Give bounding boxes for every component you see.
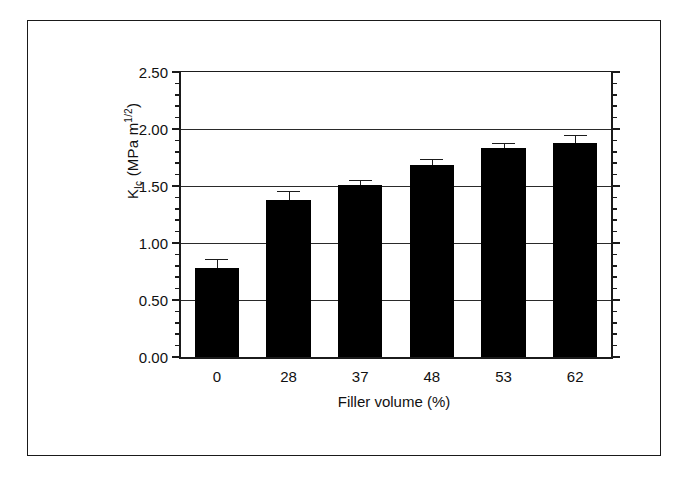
x-axis-title: Filler volume (%) — [179, 393, 609, 410]
y-axis-minor-tick — [175, 254, 181, 256]
y-axis-tick-label: 1.50 — [108, 178, 168, 195]
y-axis-minor-tick-right — [611, 117, 617, 119]
plot-area: 0.000.501.001.502.002.50 02837485362 — [179, 71, 613, 359]
y-axis-major-tick — [172, 185, 181, 187]
y-axis-major-tick — [172, 128, 181, 130]
y-axis-major-tick — [172, 356, 181, 358]
error-bar-stem — [432, 159, 433, 166]
y-axis-major-tick — [172, 242, 181, 244]
y-axis-minor-tick — [175, 151, 181, 153]
y-axis-major-tick — [172, 71, 181, 73]
error-bar-cap — [205, 259, 228, 260]
y-axis-major-tick-right — [611, 356, 620, 358]
y-axis-major-tick-right — [611, 71, 620, 73]
y-axis-major-tick-right — [611, 242, 620, 244]
y-axis-minor-tick — [175, 288, 181, 290]
x-axis-tick-label: 48 — [423, 368, 440, 385]
y-axis-minor-tick — [175, 311, 181, 313]
y-axis-minor-tick-right — [611, 140, 617, 142]
bar — [266, 200, 310, 357]
y-axis-minor-tick-right — [611, 288, 617, 290]
y-axis-minor-tick — [175, 333, 181, 335]
y-axis-minor-tick-right — [611, 174, 617, 176]
bar — [481, 148, 525, 357]
x-axis-tick-label: 53 — [495, 368, 512, 385]
y-axis-minor-tick-right — [611, 94, 617, 96]
bar — [338, 185, 382, 357]
y-axis-minor-tick — [175, 197, 181, 199]
y-axis-tick-label: 2.50 — [108, 64, 168, 81]
y-axis-minor-tick — [175, 117, 181, 119]
y-axis-minor-tick — [175, 231, 181, 233]
y-axis-major-tick-right — [611, 128, 620, 130]
x-axis-tick-label: 28 — [280, 368, 297, 385]
y-axis-units-suffix: ) — [124, 103, 141, 108]
y-axis-minor-tick-right — [611, 151, 617, 153]
y-axis-minor-tick — [175, 140, 181, 142]
error-bar-stem — [217, 259, 218, 268]
x-axis-tick-label: 37 — [352, 368, 369, 385]
gridline — [181, 243, 611, 244]
gridline — [181, 186, 611, 187]
bar — [410, 165, 454, 357]
y-axis-minor-tick — [175, 174, 181, 176]
error-bar-stem — [575, 135, 576, 143]
y-axis-minor-tick-right — [611, 219, 617, 221]
gridline — [181, 300, 611, 301]
y-axis-major-tick-right — [611, 185, 620, 187]
y-axis-minor-tick-right — [611, 197, 617, 199]
y-axis-minor-tick — [175, 219, 181, 221]
error-bar-cap — [349, 180, 372, 181]
y-axis-tick-label: 1.00 — [108, 235, 168, 252]
y-axis-minor-tick — [175, 276, 181, 278]
y-axis-minor-tick-right — [611, 208, 617, 210]
y-axis-minor-tick-right — [611, 265, 617, 267]
error-bar-cap — [277, 191, 300, 192]
y-axis-minor-tick-right — [611, 311, 617, 313]
y-axis-minor-tick — [175, 322, 181, 324]
y-axis-minor-tick-right — [611, 254, 617, 256]
y-axis-minor-tick-right — [611, 231, 617, 233]
y-axis-minor-tick-right — [611, 162, 617, 164]
y-axis-minor-tick — [175, 83, 181, 85]
y-axis-major-tick — [172, 299, 181, 301]
x-axis-tick-label: 62 — [567, 368, 584, 385]
y-axis-minor-tick-right — [611, 83, 617, 85]
bar — [553, 143, 597, 357]
y-axis-minor-tick — [175, 94, 181, 96]
figure-frame: KIc (MPa m1/2) 0.000.501.001.502.002.50 … — [27, 20, 661, 456]
y-axis-major-tick-right — [611, 299, 620, 301]
error-bar-stem — [289, 191, 290, 200]
y-axis-tick-label: 0.50 — [108, 292, 168, 309]
y-axis-minor-tick-right — [611, 322, 617, 324]
error-bar-cap — [492, 143, 515, 144]
error-bar-cap — [564, 135, 587, 136]
y-axis-minor-tick — [175, 265, 181, 267]
y-axis-minor-tick-right — [611, 276, 617, 278]
y-axis-minor-tick — [175, 162, 181, 164]
error-bar-cap — [420, 159, 443, 160]
y-axis-minor-tick — [175, 208, 181, 210]
gridline — [181, 129, 611, 130]
y-axis-minor-tick-right — [611, 345, 617, 347]
y-axis-tick-label: 2.00 — [108, 121, 168, 138]
y-axis-minor-tick — [175, 105, 181, 107]
chart-plot-wrapper: KIc (MPa m1/2) 0.000.501.001.502.002.50 … — [28, 21, 660, 455]
y-axis-tick-label: 0.00 — [108, 349, 168, 366]
y-axis-minor-tick — [175, 345, 181, 347]
x-axis-tick-label: 0 — [213, 368, 221, 385]
y-axis-minor-tick-right — [611, 333, 617, 335]
bar — [195, 268, 239, 357]
y-axis-minor-tick-right — [611, 105, 617, 107]
